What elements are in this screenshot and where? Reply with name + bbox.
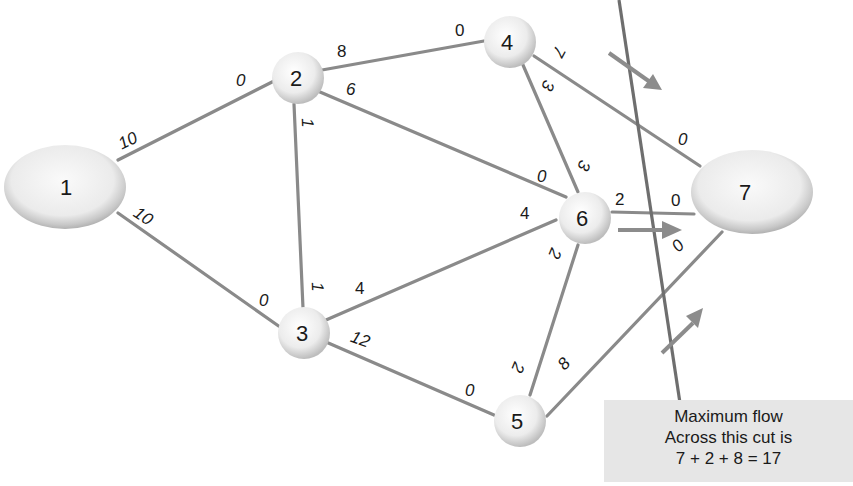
edge-2-4-cap-from: 8: [337, 42, 346, 61]
caption-box: Maximum flow Across this cut is 7 + 2 + …: [604, 400, 853, 482]
edge-1-2-cap-to: 0: [236, 71, 246, 90]
edge-3-6-cap-to: 4: [520, 204, 529, 223]
edge-6-5-cap-from: 2: [544, 245, 566, 262]
edge-3-5: [326, 342, 494, 415]
arrow-icon-top: [609, 53, 662, 90]
node-4-label: 4: [501, 30, 513, 55]
edge-4-7-cap-from: 7: [548, 43, 569, 61]
edge-1-2: [118, 80, 276, 160]
edge-6-5: [530, 245, 578, 395]
node-5-label: 5: [511, 409, 523, 434]
edge-2-6-cap-from: 6: [346, 80, 356, 99]
edge-2-3: [294, 104, 303, 308]
node-4: 4: [484, 16, 536, 68]
edge-5-7-cap-from: 8: [554, 354, 575, 374]
edge-2-3-cap-from: 1: [298, 118, 317, 128]
caption-line-3: 7 + 2 + 8 = 17: [604, 448, 853, 469]
caption-line-1: Maximum flow: [604, 406, 853, 427]
edge-6-7-cap-from: 2: [615, 190, 624, 209]
edge-2-6: [320, 92, 566, 197]
edge-3-6: [326, 220, 556, 320]
node-7: 7: [691, 150, 813, 234]
edge-6-5-cap-to: 2: [507, 359, 529, 376]
node-1: 1: [4, 145, 126, 229]
node-7-label: 7: [739, 180, 751, 205]
edge-6-7: [612, 212, 694, 214]
edge-3-6-cap-from: 4: [355, 279, 364, 298]
edge-4-7-cap-to: 0: [678, 130, 688, 149]
edge-6-7-cap-to: 0: [671, 191, 680, 210]
caption-line-2: Across this cut is: [604, 427, 853, 448]
edge-4-6-cap-from: 3: [537, 77, 558, 93]
node-6-label: 6: [576, 206, 588, 231]
edge-3-5-cap-to: 0: [465, 381, 475, 400]
node-6: 6: [559, 192, 611, 244]
edge-5-7-cap-to: 0: [668, 236, 689, 256]
edge-4-6-cap-to: 3: [573, 157, 594, 173]
edge-2-6-cap-to: 0: [537, 167, 547, 186]
edge-1-3-cap-to: 0: [259, 291, 269, 310]
edge-2-4-cap-to: 0: [455, 21, 464, 40]
node-5: 5: [494, 395, 546, 447]
node-3: 3: [278, 307, 330, 359]
arrow-icon-middle: [618, 221, 682, 239]
node-2-label: 2: [290, 66, 302, 91]
edge-3-5-cap-from: 12: [348, 327, 373, 352]
node-1-label: 1: [60, 175, 72, 200]
edge-1-3: [118, 213, 280, 327]
node-3-label: 3: [296, 321, 308, 346]
node-2: 2: [272, 52, 324, 104]
edge-2-3-cap-to: 1: [308, 282, 327, 292]
